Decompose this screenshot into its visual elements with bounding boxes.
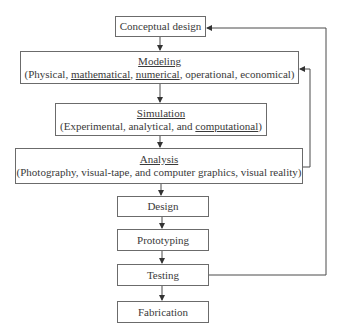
node-simulation: Simulation (Experimental, analytical, an… [55,103,267,136]
node-title: Analysis [140,153,179,166]
node-conceptual-design: Conceptual design [115,16,206,37]
node-title: Prototyping [137,234,189,247]
node-modeling: Modeling (Physical, mathematical, numeri… [20,51,299,84]
node-title: Fabrication [138,306,188,319]
node-detail: (Experimental, analytical, and computati… [60,120,262,133]
node-title: Design [147,200,178,213]
node-testing: Testing [117,264,209,286]
node-prototyping: Prototyping [117,229,209,251]
node-fabrication: Fabrication [117,301,209,323]
node-design: Design [117,196,209,217]
node-analysis: Analysis (Photography, visual-tape, and … [15,148,303,184]
node-title: Simulation [137,107,185,120]
node-title: Conceptual design [120,20,202,33]
node-detail: (Photography, visual-tape, and computer … [17,166,302,179]
node-detail: (Physical, mathematical, numerical, oper… [24,68,294,81]
node-title: Modeling [138,55,181,68]
node-title: Testing [147,269,179,282]
